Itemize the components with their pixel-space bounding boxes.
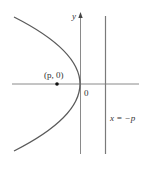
origin-label: 0 — [84, 88, 89, 98]
directrix-label: x = −p — [109, 113, 136, 123]
focus-point — [55, 82, 59, 86]
parabola-diagram: y (p, 0) 0 x = −p — [0, 0, 143, 169]
focus-label: (p, 0) — [44, 70, 64, 80]
y-axis-arrow-icon — [78, 12, 82, 18]
y-axis-label: y — [71, 11, 76, 21]
